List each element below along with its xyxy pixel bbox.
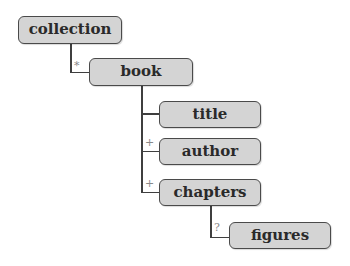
connector-book-author	[141, 151, 160, 153]
node-figures: figures	[229, 222, 331, 249]
cardinality-chapters: +	[145, 178, 154, 189]
connector-chapters-figures-vertical	[210, 205, 212, 238]
connector-collection-book-horizontal	[70, 72, 90, 74]
node-collection: collection	[18, 16, 122, 44]
cardinality-figures: ?	[214, 222, 220, 233]
node-author: author	[159, 138, 261, 165]
cardinality-book: *	[74, 60, 80, 71]
node-title: title	[159, 101, 261, 128]
connector-book-children-vertical	[141, 85, 143, 193]
node-book: book	[89, 58, 193, 86]
connector-collection-book-vertical	[70, 43, 72, 73]
connector-chapters-figures-horizontal	[210, 237, 230, 239]
node-chapters: chapters	[159, 179, 261, 206]
connector-book-chapters	[141, 192, 160, 194]
connector-book-title	[141, 113, 160, 115]
cardinality-author: +	[145, 137, 154, 148]
